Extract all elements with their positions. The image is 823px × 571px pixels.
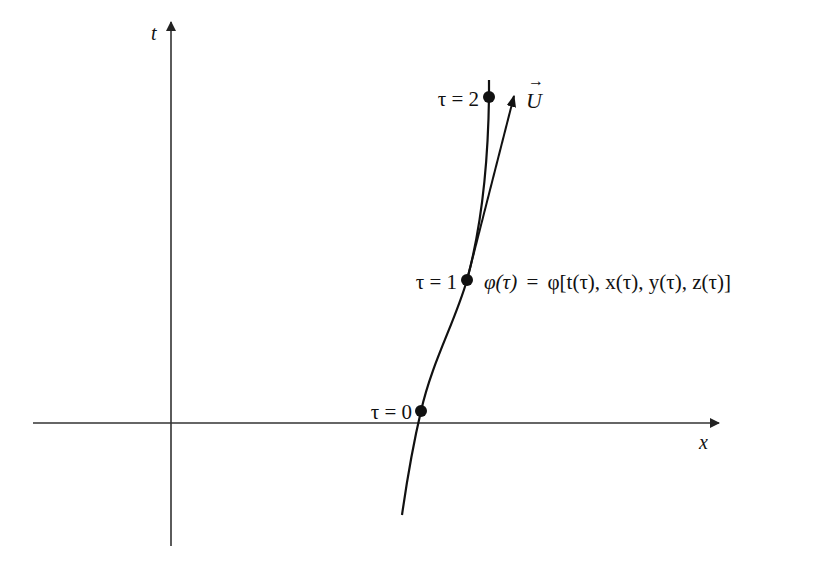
vector-u-label: U (526, 88, 544, 113)
formula-lhs: φ(τ) (484, 270, 517, 294)
t-axis-label: t (151, 22, 157, 44)
formula-equals: = (526, 270, 538, 294)
parametrization-formula: φ(τ) = φ[t(τ), x(τ), y(τ), z(τ)] (484, 270, 731, 294)
vector-u-accent: → (528, 72, 544, 89)
formula-rhs: φ[t(τ), x(τ), y(τ), z(τ)] (547, 270, 730, 294)
x-axis-label: x (698, 431, 708, 453)
spacetime-diagram: t x τ = 0 τ = 1 τ = 2 φ(τ) = φ[t(τ), x(τ… (0, 0, 823, 571)
label-tau-1: τ = 1 (416, 270, 457, 294)
label-tau-2: τ = 2 (438, 87, 479, 111)
worldline-curve (402, 80, 489, 515)
point-tau-0 (415, 405, 427, 417)
point-tau-2 (483, 91, 495, 103)
label-tau-0: τ = 0 (371, 400, 412, 424)
tangent-vector-arrow (467, 96, 514, 280)
point-tau-1 (461, 274, 473, 286)
